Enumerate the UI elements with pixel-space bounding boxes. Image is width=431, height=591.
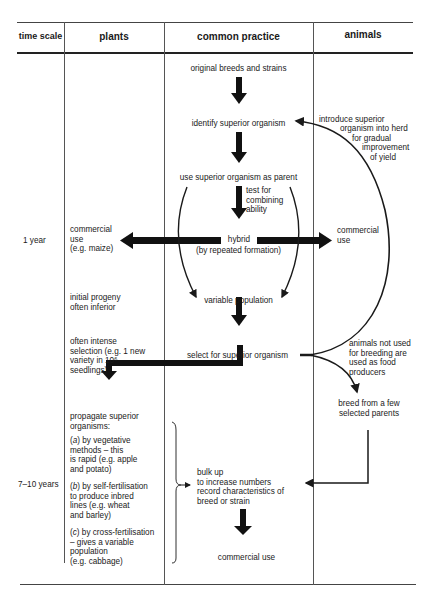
- step-use-as-parent: use superior organism as parent: [164, 173, 313, 183]
- final-commercial-use: commercial use: [172, 553, 321, 563]
- step-original-breeds: original breeds and strains: [164, 64, 313, 74]
- bulk-up-note: bulk up to increase numbers record chara…: [197, 468, 284, 506]
- hybrid-note: (by repeated formation): [164, 246, 313, 256]
- plants-method-b: (b) by self-fertilisation to produce inb…: [70, 482, 148, 520]
- animals-introduce-note: introduce superior organism into herd fo…: [319, 115, 409, 162]
- animals-commercial-use: commercial use: [337, 226, 379, 245]
- plants-method-a: (a) by vegetative methods – this is rapi…: [70, 436, 137, 474]
- plants-method-c: (c) by cross-fertilisation – gives a var…: [70, 528, 154, 566]
- test-note: test for combining ability: [246, 186, 283, 215]
- animals-breed-selected: breed from a few selected parents: [325, 399, 413, 418]
- plants-intense-selection: often intense selection (e.g. 1 new vari…: [70, 337, 145, 375]
- step-identify-superior: identify superior organism: [164, 119, 313, 129]
- plants-commercial-use: commercial use (e.g. maize): [70, 225, 113, 254]
- plants-propagate: propagate superior organisms:: [70, 412, 139, 431]
- animals-food-producers: animals not used for breeding are used a…: [349, 339, 411, 377]
- plants-initial-progeny: initial progeny often inferior: [70, 293, 121, 312]
- variable-population: variable population: [164, 296, 313, 306]
- hybrid-label: hybrid: [220, 235, 258, 245]
- select-superior: select for superior organism: [187, 351, 288, 361]
